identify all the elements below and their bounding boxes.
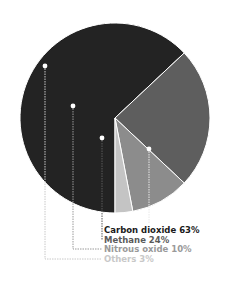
pie-chart: Carbon dioxide 63%Methane 24%Nitrous oxi… xyxy=(0,0,226,282)
pie-slices xyxy=(20,23,210,213)
leader-dot-methane xyxy=(100,136,105,141)
legend-label-carbon-dioxide: Carbon dioxide 63% xyxy=(104,225,200,235)
legend-label-others: Others 3% xyxy=(104,254,154,264)
leader-dot-nitrous-oxide xyxy=(71,104,76,109)
leader-dot-others xyxy=(43,64,48,69)
legend: Carbon dioxide 63%Methane 24%Nitrous oxi… xyxy=(104,225,200,264)
leader-dot-carbon-dioxide xyxy=(147,147,152,152)
legend-label-nitrous-oxide: Nitrous oxide 10% xyxy=(104,244,192,254)
